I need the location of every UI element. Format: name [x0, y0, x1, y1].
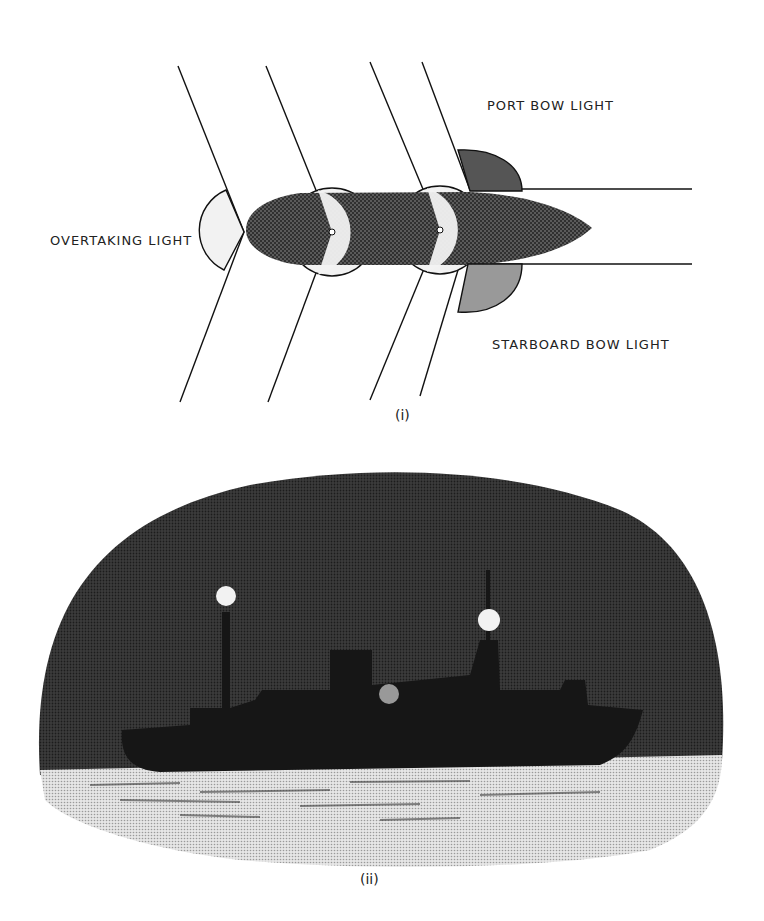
- stern-masthead-light: [216, 586, 236, 606]
- overtaking-light-sector: [199, 190, 244, 270]
- figure-i-caption: (i): [395, 407, 410, 423]
- starboard-bow-light-label: STARBOARD BOW LIGHT: [492, 337, 670, 352]
- port-bow-light-label: PORT BOW LIGHT: [487, 98, 614, 113]
- figure-ii-caption: (ii): [360, 871, 379, 887]
- sea: [40, 755, 722, 867]
- figure-ii: (ii): [39, 472, 723, 887]
- overtaking-light-label: OVERTAKING LIGHT: [50, 233, 192, 248]
- fore-masthead-light-ii: [478, 609, 500, 631]
- side-light: [379, 684, 399, 704]
- figure-i: PORT BOW LIGHT OVERTAKING LIGHT STARBOAR…: [50, 62, 692, 423]
- starboard-bow-light-sector: [458, 264, 522, 312]
- port-bow-light-sector: [458, 150, 522, 191]
- diagram-canvas: PORT BOW LIGHT OVERTAKING LIGHT STARBOAR…: [0, 0, 764, 921]
- ship-hull: [246, 192, 592, 265]
